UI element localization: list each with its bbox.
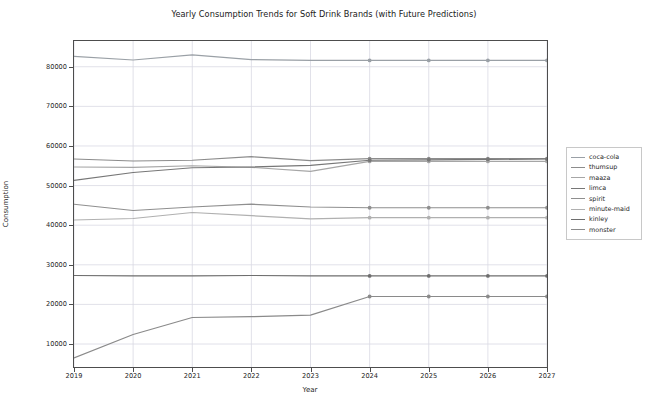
prediction-marker-limca-2024 (368, 158, 372, 162)
prediction-marker-coca-cola-2024 (368, 59, 372, 63)
legend-item-maaza[interactable]: maaza (570, 173, 638, 183)
legend-swatch-kinley (571, 219, 585, 220)
y-tick-label: 70000 (0, 102, 67, 110)
y-tick-label: 80000 (0, 63, 67, 71)
prediction-marker-monster-2025 (427, 295, 431, 299)
x-tick-mark (488, 368, 489, 372)
legend-label: kinley (589, 216, 608, 222)
legend-item-coca-cola[interactable]: coca-cola (570, 152, 638, 162)
y-tick-label: 40000 (0, 221, 67, 229)
legend-label: coca-cola (589, 154, 619, 160)
x-tick-mark (370, 368, 371, 372)
prediction-marker-minute-maid-2027 (545, 216, 547, 220)
x-tick-mark (547, 368, 548, 372)
prediction-marker-monster-2027 (545, 295, 547, 299)
prediction-marker-coca-cola-2026 (486, 59, 490, 63)
chart-title: Yearly Consumption Trends for Soft Drink… (0, 9, 648, 19)
x-tick-label: 2024 (361, 372, 378, 380)
legend-swatch-limca (571, 188, 585, 189)
legend-swatch-spirit (571, 198, 585, 199)
prediction-marker-spirit-2026 (486, 206, 490, 210)
x-tick-label: 2019 (66, 372, 83, 380)
prediction-marker-kinley-2024 (368, 274, 372, 278)
prediction-marker-monster-2026 (486, 295, 490, 299)
prediction-marker-kinley-2027 (545, 274, 547, 278)
x-tick-label: 2020 (125, 372, 142, 380)
prediction-marker-coca-cola-2027 (545, 59, 547, 63)
x-axis-label: Year (303, 386, 318, 394)
y-tick-label: 20000 (0, 300, 67, 308)
prediction-marker-minute-maid-2025 (427, 216, 431, 220)
y-tick-label: 50000 (0, 182, 67, 190)
legend-label: spirit (589, 196, 605, 202)
chart-figure: Yearly Consumption Trends for Soft Drink… (0, 0, 648, 402)
prediction-marker-spirit-2025 (427, 206, 431, 210)
prediction-marker-minute-maid-2024 (368, 216, 372, 220)
prediction-marker-monster-2024 (368, 295, 372, 299)
x-tick-mark (429, 368, 430, 372)
y-tick-label: 10000 (0, 340, 67, 348)
x-tick-mark (311, 368, 312, 372)
legend-swatch-minute-maid (571, 209, 585, 210)
legend-label: thumsup (589, 164, 617, 170)
legend-label: minute-maid (589, 206, 630, 212)
prediction-marker-coca-cola-2025 (427, 59, 431, 63)
x-tick-label: 2023 (302, 372, 319, 380)
series-line-minute-maid (74, 213, 547, 221)
x-tick-mark (133, 368, 134, 372)
legend-label: monster (589, 227, 616, 233)
prediction-marker-limca-2025 (427, 158, 431, 162)
y-tick-label: 60000 (0, 142, 67, 150)
legend-swatch-thumsup (571, 167, 585, 168)
legend-swatch-monster (571, 229, 585, 230)
prediction-marker-kinley-2026 (486, 274, 490, 278)
legend-swatch-coca-cola (571, 157, 585, 158)
x-tick-mark (74, 368, 75, 372)
series-lines (74, 41, 547, 367)
prediction-marker-minute-maid-2026 (486, 216, 490, 220)
legend-item-spirit[interactable]: spirit (570, 194, 638, 204)
plot-area (73, 40, 548, 368)
prediction-marker-spirit-2024 (368, 206, 372, 210)
prediction-marker-spirit-2027 (545, 206, 547, 210)
legend-item-minute-maid[interactable]: minute-maid (570, 204, 638, 214)
x-tick-label: 2026 (479, 372, 496, 380)
legend-item-kinley[interactable]: kinley (570, 214, 638, 224)
legend-item-limca[interactable]: limca (570, 183, 638, 193)
prediction-marker-kinley-2025 (427, 274, 431, 278)
prediction-marker-limca-2026 (486, 158, 490, 162)
legend-label: maaza (589, 175, 610, 181)
series-line-maaza (74, 161, 547, 171)
y-tick-label: 30000 (0, 261, 67, 269)
x-tick-mark (192, 368, 193, 372)
series-line-spirit (74, 204, 547, 210)
x-tick-label: 2022 (243, 372, 260, 380)
legend-swatch-maaza (571, 177, 585, 178)
series-line-monster (74, 296, 547, 357)
x-tick-label: 2025 (420, 372, 437, 380)
series-line-coca-cola (74, 55, 547, 61)
series-line-thumsup (74, 157, 547, 161)
x-tick-label: 2027 (539, 372, 556, 380)
legend-item-monster[interactable]: monster (570, 225, 638, 235)
legend: coca-colathumsupmaazalimcaspiritminute-m… (566, 147, 642, 240)
series-line-limca (74, 159, 547, 180)
x-tick-mark (251, 368, 252, 372)
legend-label: limca (589, 185, 606, 191)
legend-item-thumsup[interactable]: thumsup (570, 162, 638, 172)
x-tick-label: 2021 (184, 372, 201, 380)
